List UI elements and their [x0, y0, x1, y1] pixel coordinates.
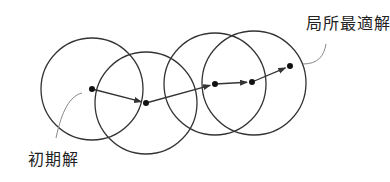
initial-point: [89, 86, 95, 92]
neighborhood-circles: [41, 31, 306, 154]
solution-point: [212, 81, 218, 87]
search-path-arrows: [92, 68, 285, 103]
solution-point: [249, 79, 255, 85]
local-optimum-label: 局所最適解: [306, 10, 390, 34]
solution-points: [89, 63, 293, 106]
move-arrow: [215, 82, 247, 84]
local-optimum-leader-line: [303, 44, 326, 64]
initial-solution-label: 初期解: [28, 146, 79, 170]
move-arrow: [92, 89, 141, 102]
local-optimum-point: [287, 63, 293, 69]
solution-point: [143, 100, 149, 106]
move-arrow: [146, 85, 210, 103]
initial-solution-leader-line: [56, 93, 82, 138]
move-arrow: [252, 68, 285, 82]
